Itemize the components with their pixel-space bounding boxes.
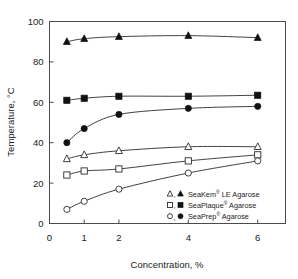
data-point-filled-triangle — [254, 34, 261, 41]
data-point-filled-square — [116, 93, 122, 99]
data-point-open-square — [168, 203, 173, 208]
x-axis: 01246 — [47, 220, 261, 243]
x-tick-label: 2 — [116, 232, 121, 243]
legend-separator: , — [174, 190, 176, 199]
series-line — [67, 106, 258, 142]
line-chart-canvas: 020406080100 01246 Temperature, °C Conce… — [0, 0, 298, 279]
series-filled-circle — [64, 103, 261, 146]
data-point-open-circle — [81, 198, 87, 204]
data-point-filled-circle — [116, 111, 122, 117]
data-point-open-circle — [116, 186, 122, 192]
series-open-triangle — [63, 143, 261, 162]
data-point-filled-circle — [255, 103, 261, 109]
legend-row: ,SeaKem® LE Agarose — [167, 189, 259, 199]
y-tick-label: 60 — [33, 97, 44, 108]
x-tick-label: 1 — [82, 232, 87, 243]
data-point-open-circle — [64, 206, 70, 212]
legend-label: SeaPlaque® Agarose — [188, 200, 256, 210]
data-point-open-triangle — [185, 143, 192, 150]
data-point-open-triangle — [254, 143, 261, 150]
data-point-open-circle — [185, 170, 191, 176]
data-point-open-square — [185, 158, 191, 164]
data-point-open-square — [64, 172, 70, 178]
data-point-filled-circle — [178, 214, 183, 219]
y-tick-label: 100 — [28, 16, 44, 27]
series-filled-triangle — [63, 32, 261, 45]
data-point-open-circle — [255, 158, 261, 164]
legend-separator: , — [174, 201, 176, 210]
data-point-filled-square — [64, 97, 70, 103]
data-point-filled-square — [185, 93, 191, 99]
data-point-filled-circle — [81, 125, 87, 131]
data-point-open-square — [81, 168, 87, 174]
data-point-filled-triangle — [185, 32, 192, 39]
legend-row: ,SeaPrep® Agarose — [168, 211, 249, 221]
series-filled-square — [64, 92, 261, 103]
data-point-filled-triangle — [178, 191, 184, 196]
data-point-filled-triangle — [115, 33, 122, 40]
series-line — [67, 36, 258, 42]
legend-label: SeaKem® LE Agarose — [188, 189, 259, 199]
data-point-open-square — [255, 152, 261, 158]
data-point-filled-square — [178, 203, 183, 208]
data-point-open-triangle — [167, 191, 173, 196]
y-tick-label: 0 — [38, 218, 43, 229]
x-axis-title: Concentration, % — [131, 259, 204, 270]
data-point-open-square — [116, 166, 122, 172]
y-axis-title: Temperature, °C — [5, 87, 16, 156]
y-tick-label: 20 — [33, 178, 44, 189]
x-tick-label: 4 — [186, 232, 191, 243]
legend-label: SeaPrep® Agarose — [188, 211, 249, 221]
data-point-filled-square — [255, 92, 261, 98]
y-tick-label: 40 — [33, 137, 44, 148]
y-tick-label: 80 — [33, 56, 44, 67]
chart-legend: ,SeaKem® LE Agarose,SeaPlaque® Agarose,S… — [167, 189, 259, 222]
cropped-caption-remnant — [0, 0, 298, 10]
data-point-filled-square — [81, 95, 87, 101]
data-point-open-circle — [168, 214, 173, 219]
series-line — [67, 95, 258, 100]
chart-figure: 020406080100 01246 Temperature, °C Conce… — [0, 0, 298, 279]
data-point-filled-circle — [64, 140, 70, 146]
x-tick-label: 6 — [255, 232, 260, 243]
series-line — [67, 155, 258, 175]
x-tick-label: 0 — [47, 232, 52, 243]
data-point-filled-circle — [185, 105, 191, 111]
data-series-layer — [63, 32, 261, 213]
legend-row: ,SeaPlaque® Agarose — [168, 200, 257, 210]
legend-separator: , — [174, 213, 176, 222]
